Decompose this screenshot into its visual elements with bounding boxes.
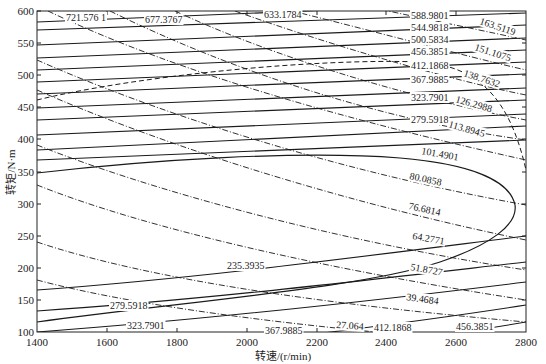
x-axis-title: 转速/(r/min) [255, 349, 312, 363]
y-tick-label: 550 [18, 37, 35, 49]
y-tick-label: 600 [18, 5, 35, 17]
contour-label: 64.2771 [412, 230, 446, 246]
contour-label: 27.064 [336, 319, 364, 332]
contour-label: 323.7901 [411, 92, 449, 103]
solid-contour-labels: 721.576 1 677.3767 633.1784 588.9801 544… [65, 9, 495, 336]
contour-label: 279.5918 [411, 114, 449, 125]
y-tick-label: 350 [18, 166, 35, 178]
y-tick-label: 400 [18, 133, 35, 145]
x-tick-label: 1600 [96, 336, 119, 348]
solid-contours [37, 2, 526, 160]
contour-label: 151.1075 [473, 41, 512, 63]
contour-label: 367.9885 [411, 74, 449, 85]
y-tick-label: 450 [18, 101, 35, 113]
contour-label: 544.9818 [411, 22, 449, 33]
contour-label: 367.9885 [265, 325, 303, 336]
contour-label: 721.576 1 [66, 12, 106, 23]
y-tick-label: 300 [18, 198, 35, 210]
x-tick-label: 2400 [375, 336, 398, 348]
y-tick-label: 200 [18, 262, 35, 274]
contour-label: 126.2988 [454, 93, 493, 114]
contour-label: 412.1868 [411, 60, 449, 71]
x-tick-label: 2200 [306, 336, 329, 348]
x-tick-label: 2800 [515, 336, 538, 348]
y-axis-title: 转矩/N·m [4, 149, 17, 195]
dashdot-contours [37, 5, 526, 345]
contour-label: 412.1868 [374, 322, 412, 333]
y-tick-label: 500 [18, 69, 35, 81]
contour-label: 500.5834 [411, 34, 449, 45]
contour-label: 456.3851 [456, 321, 494, 332]
contour-label: 456.3851 [411, 46, 449, 57]
contour-label: 76.6814 [408, 200, 442, 218]
contour-label: 633.1784 [264, 9, 302, 20]
contour-label: 138.7632 [462, 67, 501, 89]
y-tick-label: 150 [18, 294, 35, 306]
contour-label: 101.4901 [421, 145, 460, 162]
contour-label: 588.9801 [411, 10, 449, 21]
y-tick-label: 250 [18, 230, 35, 242]
x-axis [107, 11, 456, 332]
contour-chart: 600 550 500 450 400 350 300 250 200 150 … [0, 0, 546, 364]
x-tick-label: 2600 [445, 336, 468, 348]
x-tick-label: 2000 [236, 336, 259, 348]
x-tick-label: 1800 [166, 336, 189, 348]
contour-label: 323.7901 [127, 320, 165, 331]
contour-label: 113.8945 [447, 118, 486, 139]
contour-label: 235.3935 [227, 260, 265, 271]
x-tick-label: 1400 [26, 336, 49, 348]
contour-label: 279.5918 [110, 300, 148, 311]
contour-label: 677.3767 [145, 14, 183, 25]
